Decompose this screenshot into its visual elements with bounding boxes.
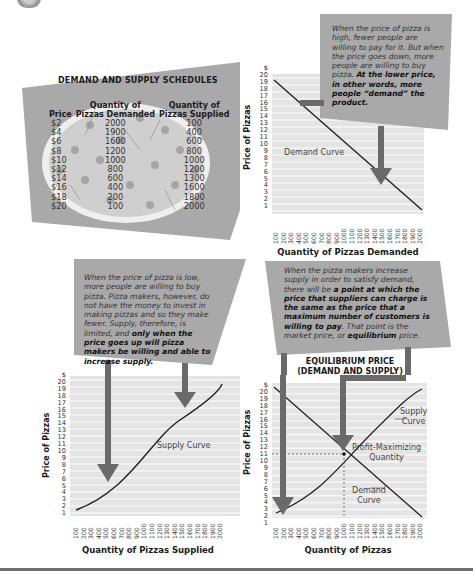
x-tick: 1800 [201,513,209,539]
x-tick: 100 [272,513,280,539]
supply-curve-label: Supply Curve [157,441,210,450]
schedule-row: $22000100 [49,119,231,128]
x-tick: 500 [102,513,110,539]
supply-y-ticks: $2019181716151413121110987654321 [56,372,66,517]
x-tick: 300 [287,218,295,244]
supply-chart [40,360,240,520]
x-tick: 300 [87,513,95,539]
x-tick: 100 [72,513,80,539]
schedule-row: $201002000 [49,202,231,211]
x-tick: 1300 [363,513,371,539]
x-tick: 1100 [348,513,356,539]
schedule-row: $61600600 [49,137,231,146]
x-tick: 300 [287,513,295,539]
supply-y-label: Price of Pizzas [42,413,51,478]
x-tick: 2000 [416,513,424,539]
x-tick: 1000 [340,513,348,539]
schedule-table: Quantity of Quantity of Price Pizzas Dem… [49,101,231,211]
x-tick: 800 [325,513,333,539]
demand-y-label: Price of Pizzas [243,105,252,170]
x-tick: 1700 [194,513,202,539]
eq-x-label: Quantity of Pizzas [272,545,424,555]
cell-demanded: 100 [74,202,157,211]
eq-x-ticks: 1002003004005006007008009001000110012001… [272,513,424,539]
header-demanded-line1: Quantity of [74,101,157,110]
demand-callout: When the price of pizza is high, fewer p… [332,24,444,108]
y-tick: 1 [258,520,268,527]
demand-y-ticks: $2019181716151413121110987654321 [258,65,268,210]
eq-y-ticks: $2019181716151413121110987654321 [258,382,268,527]
cell-supplied: 2000 [157,202,231,211]
supply-x-ticks: 1002003004005006007008009001000110012001… [72,513,224,539]
x-tick: 1600 [186,513,194,539]
bottom-divider [0,568,473,571]
equilibrium-title: EQUILIBRIUM PRICE (DEMAND AND SUPPLY) [290,357,410,377]
x-tick: 600 [310,513,318,539]
x-tick: 1100 [148,513,156,539]
x-tick: 1600 [386,513,394,539]
cell-price: $20 [49,202,74,211]
schedule-row: $41900400 [49,128,231,137]
y-tick: 1 [258,203,268,210]
equilibrium-callout: When the pizza makers increase supply in… [284,266,434,340]
eq-demand-label: Demand Curve [352,486,386,506]
supply-x-label: Quantity of Pizzas Supplied [72,545,224,555]
schedule-title: DEMAND AND SUPPLY SCHEDULES [58,76,218,85]
x-tick: 2000 [216,513,224,539]
x-tick: 1300 [163,513,171,539]
eq-point-label: Profit-Maximizing Quantity [352,443,421,463]
eq-supply-label: Supply Curve [400,407,427,427]
x-tick: 1000 [140,513,148,539]
x-tick: 1200 [356,513,364,539]
y-tick: 1 [56,510,66,517]
x-tick: 1200 [156,513,164,539]
eq-y-label: Price of Pizzas [243,410,252,475]
x-tick: 1800 [401,513,409,539]
x-tick: 600 [110,513,118,539]
x-tick: 800 [125,513,133,539]
x-tick: 1700 [394,513,402,539]
x-tick: 1500 [378,513,386,539]
x-tick: 500 [302,513,310,539]
x-tick: 100 [272,218,280,244]
header-supplied-line1: Quantity of [157,101,231,110]
supply-callout: When the price of pizza is low, more peo… [84,273,214,366]
x-tick: 1500 [178,513,186,539]
